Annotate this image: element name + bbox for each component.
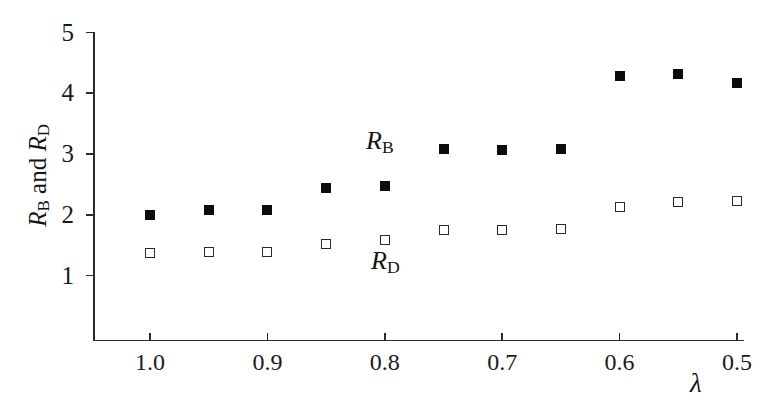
data-point-rb-0.80 xyxy=(380,181,390,191)
x-tick-label-0.7: 0.7 xyxy=(467,350,537,374)
x-axis-title: λ xyxy=(690,368,702,399)
data-point-rd-0.80 xyxy=(380,235,390,245)
x-tick-0.6 xyxy=(619,333,621,340)
x-tick-0.8 xyxy=(384,333,386,340)
x-tick-label-0.8: 0.8 xyxy=(350,350,420,374)
y-tick-4 xyxy=(86,92,93,94)
series-label-rb-main: R xyxy=(366,126,382,155)
data-point-rb-0.70 xyxy=(497,145,507,155)
y-axis-title: RB and RD xyxy=(24,60,55,290)
y-tick-3 xyxy=(86,153,93,155)
y-tick-1 xyxy=(86,275,93,277)
data-point-rb-0.50 xyxy=(732,78,742,88)
y-tick-2 xyxy=(86,214,93,216)
data-point-rb-1.00 xyxy=(145,210,155,220)
y-tick-label-5: 5 xyxy=(44,20,74,45)
data-point-rd-0.95 xyxy=(204,247,214,257)
data-point-rd-0.65 xyxy=(556,224,566,234)
data-point-rd-0.90 xyxy=(262,247,272,257)
y-axis-title-conjunction: and xyxy=(24,152,51,201)
data-point-rb-0.90 xyxy=(262,205,272,215)
data-point-rb-0.55 xyxy=(673,69,683,79)
figure-container: 54321 1.00.90.80.70.60.5 RB and RD λ RB … xyxy=(0,0,781,411)
data-point-rd-0.75 xyxy=(439,225,449,235)
y-axis-title-sub-b: B xyxy=(34,200,53,211)
data-point-rd-1.00 xyxy=(145,248,155,258)
series-label-rb-sub: B xyxy=(382,137,394,157)
y-axis-title-sub-d: D xyxy=(34,124,53,136)
data-point-rb-0.95 xyxy=(204,205,214,215)
data-point-rd-0.60 xyxy=(615,202,625,212)
series-label-rd-main: R xyxy=(371,246,387,275)
x-tick-0.7 xyxy=(501,333,503,340)
x-tick-label-1.0: 1.0 xyxy=(115,350,185,374)
x-tick-label-0.5: 0.5 xyxy=(702,350,772,374)
series-label-rb: RB xyxy=(366,126,394,158)
data-point-rb-0.65 xyxy=(556,144,566,154)
series-label-rd-sub: D xyxy=(387,257,400,277)
x-axis-line xyxy=(93,340,744,342)
x-tick-1.0 xyxy=(149,333,151,340)
data-point-rd-0.70 xyxy=(497,225,507,235)
data-point-rb-0.85 xyxy=(321,183,331,193)
x-tick-label-0.9: 0.9 xyxy=(232,350,302,374)
x-tick-0.9 xyxy=(267,333,269,340)
y-tick-5 xyxy=(86,32,93,34)
data-point-rb-0.60 xyxy=(615,71,625,81)
data-point-rd-0.85 xyxy=(321,239,331,249)
scatter-plot: 54321 1.00.90.80.70.60.5 RB and RD λ RB … xyxy=(0,0,781,411)
y-axis-title-r-d: R xyxy=(24,136,51,151)
x-tick-label-0.6: 0.6 xyxy=(585,350,655,374)
x-tick-0.5 xyxy=(736,333,738,340)
series-label-rd: RD xyxy=(371,246,400,278)
data-point-rd-0.50 xyxy=(732,196,742,206)
y-axis-title-r-b: R xyxy=(24,211,51,226)
data-point-rb-0.75 xyxy=(439,144,449,154)
y-axis-line xyxy=(93,32,95,341)
data-point-rd-0.55 xyxy=(673,197,683,207)
